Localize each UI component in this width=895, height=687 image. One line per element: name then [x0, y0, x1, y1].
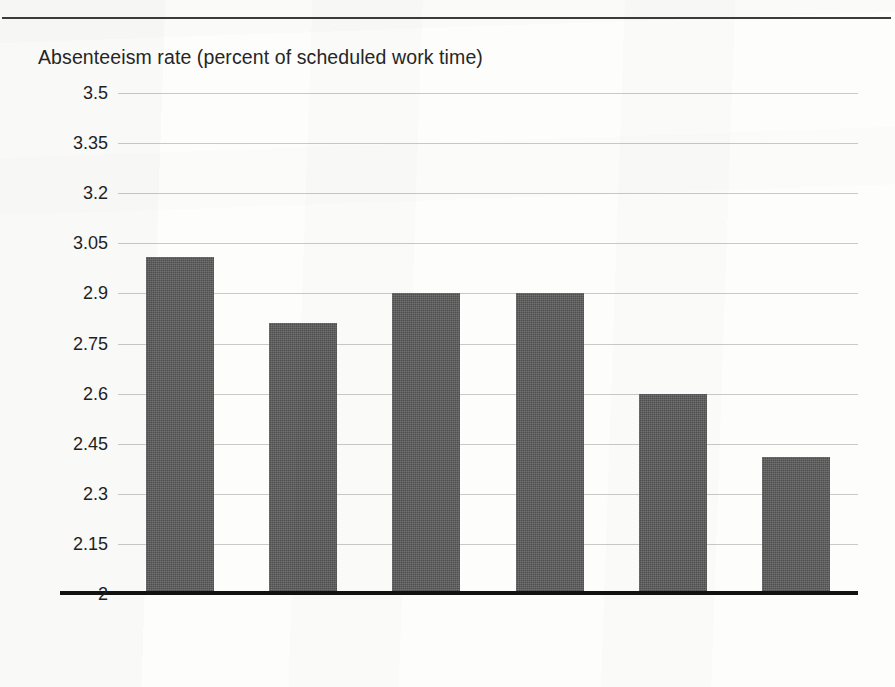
- y-tick-label: 2.3: [83, 483, 108, 504]
- y-tick-label: 3.05: [73, 233, 108, 254]
- bar-slot: [611, 93, 734, 594]
- y-tick-label: 2.45: [73, 433, 108, 454]
- bar[interactable]: [269, 323, 337, 594]
- figure-canvas: Absenteeism rate (percent of scheduled w…: [0, 0, 895, 687]
- y-tick-label: 2.15: [73, 533, 108, 554]
- bar-slot: [241, 93, 364, 594]
- bar[interactable]: [516, 293, 584, 594]
- bar-slot: [488, 93, 611, 594]
- plot-area: 3.53.353.23.052.92.752.62.452.32.152 197…: [118, 93, 858, 594]
- bar-slot: [118, 93, 241, 594]
- y-tick-label: 3.35: [73, 133, 108, 154]
- top-divider-rule: [2, 17, 891, 19]
- y-tick-label: 3.2: [83, 183, 108, 204]
- y-tick-label: 2.9: [83, 283, 108, 304]
- x-axis-line: [60, 591, 858, 595]
- bar-slot: [735, 93, 858, 594]
- y-tick-label: 2: [98, 584, 108, 605]
- bars-group: [118, 93, 858, 594]
- y-tick-label: 2.6: [83, 383, 108, 404]
- bar[interactable]: [762, 457, 830, 594]
- bar[interactable]: [146, 257, 214, 594]
- bar[interactable]: [392, 293, 460, 594]
- bar-slot: [365, 93, 488, 594]
- y-tick-label: 3.5: [83, 83, 108, 104]
- bar[interactable]: [639, 394, 707, 594]
- y-axis-title: Absenteeism rate (percent of scheduled w…: [38, 46, 483, 69]
- y-tick-label: 2.75: [73, 333, 108, 354]
